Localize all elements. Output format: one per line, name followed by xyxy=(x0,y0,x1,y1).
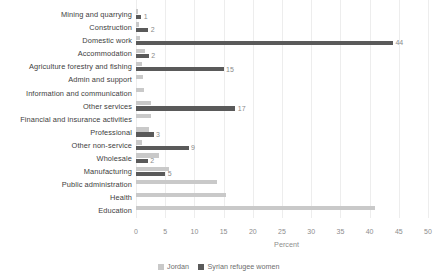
x-tick-label: 30 xyxy=(307,228,315,235)
bar-value-label: 1 xyxy=(141,13,147,21)
category-label: Domestic work xyxy=(0,34,136,47)
bar-row: Agriculture forestry and fishing15 xyxy=(0,60,437,73)
category-label: Manufacturing xyxy=(0,165,136,178)
bar-jordan xyxy=(136,127,149,131)
bar-group xyxy=(136,191,437,204)
bar-jordan xyxy=(136,9,138,13)
bar-row: Professional3 xyxy=(0,126,437,139)
bar-row: Financial and insurance activities xyxy=(0,113,437,126)
bar-group: 17 xyxy=(136,100,437,113)
bar-jordan xyxy=(136,22,139,26)
bar-jordan xyxy=(136,140,142,144)
bar-group xyxy=(136,178,437,191)
chart-legend: JordanSyrian refugee women xyxy=(0,262,437,271)
bar-group: 2 xyxy=(136,21,437,34)
bar-row: Domestic work44 xyxy=(0,34,437,47)
bar-jordan xyxy=(136,101,151,105)
bar-syrian xyxy=(136,106,235,110)
bar-syrian xyxy=(136,159,148,163)
bar-jordan xyxy=(136,75,143,79)
legend-swatch-icon xyxy=(158,264,164,270)
x-tick-label: 25 xyxy=(278,228,286,235)
legend-swatch-icon xyxy=(198,264,204,270)
category-label: Accommodation xyxy=(0,47,136,60)
bar-group: 15 xyxy=(136,60,437,73)
x-tick-label: 10 xyxy=(190,228,198,235)
bar-jordan xyxy=(136,180,217,184)
bar-row: Other non-service9 xyxy=(0,139,437,152)
category-label: Other non-service xyxy=(0,139,136,152)
bar-row: Health xyxy=(0,191,437,204)
bar-value-label: 3 xyxy=(154,131,160,139)
bar-chart: Mining and quarrying1Construction2Domest… xyxy=(0,0,437,279)
bar-group: 1 xyxy=(136,8,437,21)
bar-syrian xyxy=(136,54,149,58)
bar-syrian xyxy=(136,132,154,136)
legend-label: Jordan xyxy=(167,262,189,271)
bar-syrian xyxy=(136,41,393,45)
legend-item[interactable]: Syrian refugee women xyxy=(198,262,279,271)
x-tick-label: 40 xyxy=(366,228,374,235)
x-tick-label: 35 xyxy=(336,228,344,235)
bar-jordan xyxy=(136,62,142,66)
bar-group: 2 xyxy=(136,47,437,60)
bar-row: Public administration xyxy=(0,178,437,191)
category-label: Health xyxy=(0,191,136,204)
bar-value-label: 9 xyxy=(189,144,195,152)
category-label: Financial and insurance activities xyxy=(0,113,136,126)
category-label: Public administration xyxy=(0,178,136,191)
x-tick-label: 20 xyxy=(249,228,257,235)
x-tick-label: 45 xyxy=(395,228,403,235)
bar-syrian xyxy=(136,28,148,32)
bar-value-label: 2 xyxy=(148,157,154,165)
bar-rows: Mining and quarrying1Construction2Domest… xyxy=(0,8,437,218)
bar-row: Manufacturing5 xyxy=(0,165,437,178)
category-label: Information and communication xyxy=(0,87,136,100)
bar-row: Wholesale2 xyxy=(0,152,437,165)
category-label: Agriculture forestry and fishing xyxy=(0,60,136,73)
category-label: Mining and quarrying xyxy=(0,8,136,21)
category-label: Other services xyxy=(0,100,136,113)
bar-row: Admin and support xyxy=(0,73,437,86)
bar-group xyxy=(136,87,437,100)
bar-group: 44 xyxy=(136,34,437,47)
bar-jordan xyxy=(136,167,169,171)
bar-syrian xyxy=(136,172,165,176)
bar-jordan xyxy=(136,114,151,118)
bar-group xyxy=(136,113,437,126)
bar-value-label: 15 xyxy=(224,66,234,74)
bar-value-label: 44 xyxy=(393,39,403,47)
bar-group xyxy=(136,204,437,217)
x-axis-title: Percent xyxy=(136,240,437,249)
x-tick-label: 15 xyxy=(220,228,228,235)
bar-jordan xyxy=(136,206,375,210)
bar-value-label: 5 xyxy=(165,170,171,178)
category-label: Wholesale xyxy=(0,152,136,165)
bar-row: Other services17 xyxy=(0,100,437,113)
x-tick-label: 5 xyxy=(163,228,167,235)
category-label: Professional xyxy=(0,126,136,139)
bar-row: Mining and quarrying1 xyxy=(0,8,437,21)
category-label: Education xyxy=(0,204,136,217)
category-label: Construction xyxy=(0,21,136,34)
bar-jordan xyxy=(136,88,144,92)
bar-group xyxy=(136,73,437,86)
x-tick-label: 0 xyxy=(134,228,138,235)
x-tick-label: 50 xyxy=(424,228,432,235)
bar-row: Information and communication xyxy=(0,87,437,100)
x-axis-ticks: 05101520253035404550 xyxy=(136,228,437,240)
bar-group: 3 xyxy=(136,126,437,139)
bar-syrian xyxy=(136,67,224,71)
bar-syrian xyxy=(136,146,189,150)
bar-value-label: 2 xyxy=(148,26,154,34)
bar-group: 5 xyxy=(136,165,437,178)
bar-value-label: 2 xyxy=(149,52,155,60)
bar-jordan xyxy=(136,49,145,53)
bar-value-label: 17 xyxy=(235,105,245,113)
bar-group: 2 xyxy=(136,152,437,165)
bar-row: Construction2 xyxy=(0,21,437,34)
bar-row: Accommodation2 xyxy=(0,47,437,60)
bar-jordan xyxy=(136,193,226,197)
legend-item[interactable]: Jordan xyxy=(158,262,189,271)
category-label: Admin and support xyxy=(0,73,136,86)
